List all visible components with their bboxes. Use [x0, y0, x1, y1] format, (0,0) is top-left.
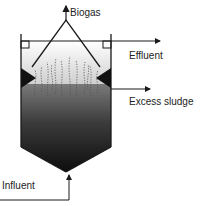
- biogas-label: Biogas: [70, 8, 101, 18]
- influent-label: Influent: [2, 181, 35, 191]
- sludge-bed: [21, 84, 111, 172]
- excess-sludge-label: Excess sludge: [129, 97, 193, 107]
- effluent-label: Effluent: [129, 51, 163, 61]
